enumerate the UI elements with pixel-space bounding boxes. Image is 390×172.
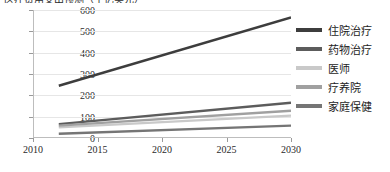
x-axis-tick-label: 2030 xyxy=(281,144,301,155)
chart-legend: 住院治疗药物治疗医师疗养院家庭保健 xyxy=(296,20,390,115)
legend-line-swatch xyxy=(296,47,322,51)
x-axis-tick-label: 2010 xyxy=(23,144,43,155)
legend-line-swatch xyxy=(296,66,322,70)
legend-item-label: 药物治疗 xyxy=(328,41,372,57)
legend-item-label: 医师 xyxy=(328,60,350,76)
legend-line-swatch xyxy=(296,104,322,108)
x-axis-tick-label: 2025 xyxy=(217,144,237,155)
legend-item[interactable]: 药物治疗 xyxy=(296,39,390,58)
legend-item-label: 住院治疗 xyxy=(328,22,372,38)
series-line xyxy=(59,126,291,134)
x-axis-tick-label: 2015 xyxy=(88,144,108,155)
legend-item[interactable]: 医师 xyxy=(296,58,390,77)
x-axis-tick xyxy=(98,138,99,142)
x-axis-tick xyxy=(227,138,228,142)
legend-item[interactable]: 家庭保健 xyxy=(296,96,390,115)
series-lines xyxy=(33,10,291,138)
plot-area xyxy=(33,10,291,138)
x-axis-tick xyxy=(162,138,163,142)
legend-item[interactable]: 疗养院 xyxy=(296,77,390,96)
x-axis-tick xyxy=(291,138,292,142)
x-axis-tick-label: 2020 xyxy=(152,144,172,155)
legend-line-swatch xyxy=(296,28,322,32)
legend-line-swatch xyxy=(296,85,322,89)
legend-item-label: 疗养院 xyxy=(328,79,361,95)
chart-title: 医疗费用支出预测（十亿美元） xyxy=(4,0,204,3)
line-chart: 医疗费用支出预测（十亿美元） 0100200300400500600 20102… xyxy=(0,0,390,172)
legend-item-label: 家庭保健 xyxy=(328,98,372,114)
series-line xyxy=(59,17,291,85)
x-axis-tick xyxy=(33,138,34,142)
legend-item[interactable]: 住院治疗 xyxy=(296,20,390,39)
